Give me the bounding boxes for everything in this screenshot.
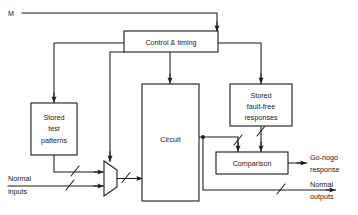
label-mode-input: M — [8, 9, 14, 18]
block-fault-free-line2: fault-free — [247, 102, 275, 111]
bus-slash-normal-outputs — [277, 184, 285, 194]
label-normal-inputs-line2: inputs — [8, 187, 28, 196]
wire-ct-to-mux — [110, 52, 124, 158]
bus-slash-test-patterns — [71, 166, 79, 176]
block-stored-test-patterns-line2: test — [48, 124, 60, 133]
block-circuit-label: Circuit — [160, 135, 180, 144]
label-go-nogo-line1: Go-nogo — [310, 153, 338, 162]
block-stored-test-patterns-line3: patterns — [41, 136, 67, 145]
bus-slash-normal-inputs — [66, 180, 74, 190]
wire-test-patterns-to-mux — [54, 155, 100, 172]
block-stored-test-patterns-line1: Stored — [43, 113, 64, 122]
label-normal-inputs-line1: Normal — [8, 174, 32, 183]
wire-circuit-to-comparison — [199, 137, 238, 148]
wire-ct-to-test-patterns — [54, 43, 124, 99]
block-diagram: Control & timing Stored test patterns Ci… — [0, 0, 358, 215]
label-normal-outputs-line2: outputs — [310, 192, 334, 201]
bus-slash-mux-out — [122, 173, 130, 183]
wire-mode-input — [22, 13, 217, 29]
block-comparison-label: Comparison — [233, 159, 272, 168]
label-go-nogo-line2: response — [310, 165, 340, 174]
label-normal-outputs-line1: Normal — [310, 180, 334, 189]
block-multiplexer[interactable] — [104, 161, 117, 196]
diagram-canvas: Control & timing Stored test patterns Ci… — [0, 0, 358, 215]
block-fault-free-line3: responses — [244, 113, 278, 122]
wire-ct-to-fault-free — [218, 43, 261, 80]
block-control-timing-label: Control & timing — [145, 38, 196, 47]
block-fault-free-line1: Stored — [250, 91, 271, 100]
